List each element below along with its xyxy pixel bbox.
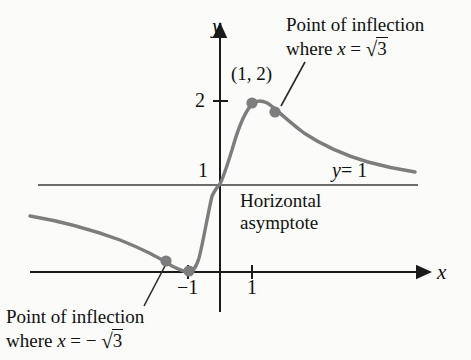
inflection-annotation-positive: Point of inflection where x = √3: [286, 14, 424, 61]
asymptote-equation-variable: y: [332, 159, 341, 181]
inflection-annotation-positive-line2: where x = √3: [286, 36, 424, 61]
curve-left-branch: [30, 184, 220, 272]
inflection-negative-variable: x: [57, 330, 65, 351]
x-axis-label: x: [437, 260, 446, 285]
inflection-positive-equals: =: [350, 38, 361, 59]
point-relative-minimum: [183, 265, 194, 276]
y-axis-label: y: [212, 14, 221, 39]
x-tick-label-minus-1: −1: [177, 276, 198, 300]
x-tick-label-1: 1: [247, 276, 257, 300]
asymptote-equation-label: y= 1: [332, 159, 367, 183]
point-inflection-positive: [269, 106, 280, 117]
leader-line-top-inflection: [281, 62, 305, 106]
y-tick-label-1: 1: [198, 159, 208, 183]
maximum-point-label: (1, 2): [231, 63, 272, 85]
math-figure: y x 2 1 −1 1 (1, 2) y= 1 Horizontal asym…: [0, 0, 471, 360]
horizontal-asymptote-caption: Horizontal asymptote: [240, 190, 321, 235]
y-tick-label-2: 2: [195, 89, 205, 113]
inflection-annotation-negative: Point of inflection where x = − √3: [6, 306, 144, 353]
curve-right-branch: [220, 101, 415, 184]
inflection-positive-variable: x: [337, 38, 345, 59]
sqrt-icon: √3: [101, 330, 123, 351]
asymptote-equation-value: = 1: [341, 159, 367, 181]
inflection-positive-radicand: 3: [376, 37, 388, 60]
inflection-negative-radicand: 3: [112, 329, 124, 352]
inflection-negative-where: where: [6, 330, 52, 351]
point-relative-maximum: [246, 97, 257, 108]
horizontal-asymptote-caption-line2: asymptote: [240, 212, 321, 234]
inflection-annotation-positive-line1: Point of inflection: [286, 14, 424, 36]
leader-line-bottom-inflection: [144, 264, 166, 306]
horizontal-asymptote-caption-line1: Horizontal: [240, 190, 321, 212]
inflection-negative-equals: = −: [70, 330, 96, 351]
inflection-annotation-negative-line1: Point of inflection: [6, 306, 144, 328]
point-inflection-negative: [160, 255, 171, 266]
sqrt-icon: √3: [366, 38, 388, 59]
inflection-annotation-negative-line2: where x = − √3: [6, 328, 144, 353]
inflection-positive-where: where: [286, 38, 332, 59]
